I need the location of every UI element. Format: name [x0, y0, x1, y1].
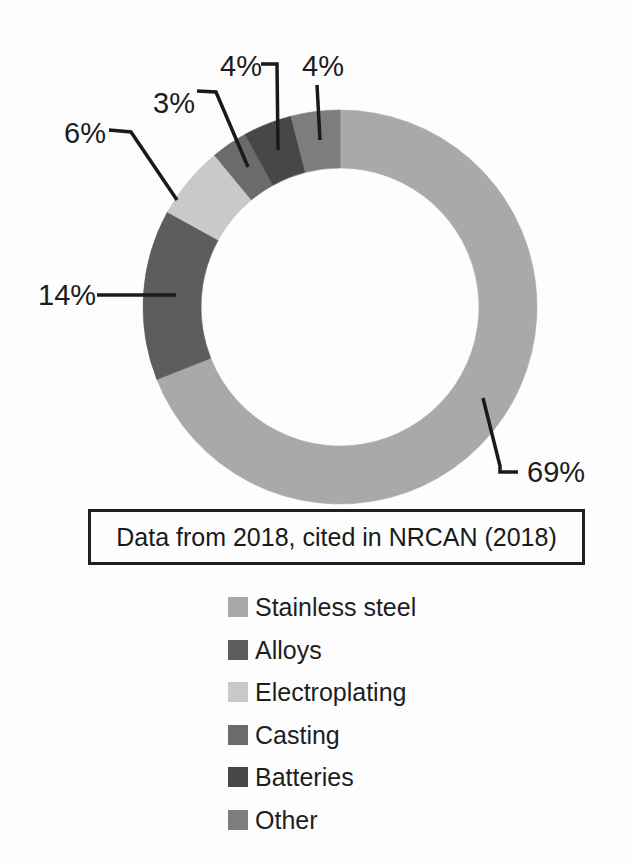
donut-segments	[143, 110, 537, 504]
callout-percentage-label: 4%	[302, 50, 344, 82]
legend-label: Electroplating	[255, 681, 406, 703]
legend-item-stainless-steel: Stainless steel	[228, 596, 416, 618]
legend-item-other: Other	[228, 809, 416, 831]
figure: 69%14%6%3%4%4% Data from 2018, cited in …	[0, 0, 634, 862]
caption-text: Data from 2018, cited in NRCAN (2018)	[116, 523, 556, 552]
legend-item-electroplating: Electroplating	[228, 681, 416, 703]
callout-percentage-label: 14%	[38, 279, 96, 311]
legend-swatch	[228, 597, 248, 617]
callout-percentage-label: 4%	[220, 50, 262, 82]
callout-leader-line	[109, 130, 177, 200]
callout-percentage-label: 3%	[153, 87, 195, 119]
donut-chart: 69%14%6%3%4%4%	[0, 0, 634, 575]
legend-label: Batteries	[255, 766, 354, 788]
legend-swatch	[228, 682, 248, 702]
legend-swatch	[228, 725, 248, 745]
legend-label: Casting	[255, 724, 340, 746]
legend-label: Alloys	[255, 639, 322, 661]
legend-label: Stainless steel	[255, 596, 416, 618]
legend-item-alloys: Alloys	[228, 639, 416, 661]
legend-swatch	[228, 640, 248, 660]
legend-swatch	[228, 810, 248, 830]
callout-percentage-label: 69%	[527, 456, 585, 488]
legend-swatch	[228, 767, 248, 787]
legend-item-batteries: Batteries	[228, 766, 416, 788]
legend-item-casting: Casting	[228, 724, 416, 746]
caption-box: Data from 2018, cited in NRCAN (2018)	[88, 509, 585, 565]
legend-label: Other	[255, 809, 318, 831]
callout-percentage-label: 6%	[64, 117, 106, 149]
legend: Stainless steelAlloysElectroplatingCasti…	[228, 596, 416, 851]
